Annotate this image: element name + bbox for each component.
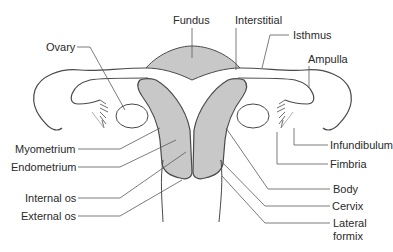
label-lateral-formix-line1: Lateral [333, 217, 367, 229]
label-myometrium: Myometrium [15, 143, 76, 155]
label-isthmus: Isthmus [293, 29, 332, 41]
label-fimbria: Fimbria [330, 158, 367, 170]
left-fimbriae [92, 100, 108, 128]
right-fimbriae [277, 100, 293, 128]
right-ovary [237, 104, 269, 128]
label-internal-os: Internal os [25, 192, 76, 204]
label-endometrium: Endometrium [11, 161, 76, 173]
label-ampulla: Ampulla [308, 53, 348, 65]
left-ovary [116, 104, 148, 128]
label-cervix: Cervix [332, 200, 363, 212]
left-uterine-wall [138, 79, 192, 179]
label-lateral-formix-line2: formix [333, 230, 363, 242]
label-interstitial: Interstitial [235, 14, 282, 26]
fundus-shape [146, 46, 240, 80]
label-ovary: Ovary [46, 41, 75, 53]
label-external-os: External os [21, 210, 76, 222]
label-body: Body [333, 183, 358, 195]
label-fundus: Fundus [173, 14, 210, 26]
right-uterine-wall [193, 79, 247, 179]
label-infundibulum: Infundibulum [330, 139, 393, 151]
